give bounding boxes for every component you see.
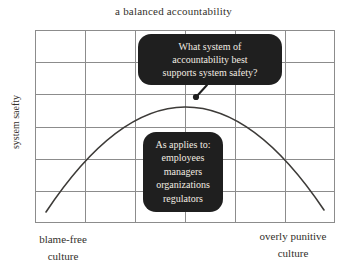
callout-question-line: accountability best	[138, 53, 282, 66]
callout-applies-line: organizations	[143, 178, 223, 191]
callout-question-line: What system of	[138, 40, 282, 53]
x-axis-label-left-line: blame-free	[17, 231, 109, 248]
callout-applies-line: managers	[143, 165, 223, 178]
callout-question-line: supports system safety?	[138, 66, 282, 79]
x-axis-label-right-line: culture	[243, 245, 343, 262]
callout-applies-line: regulators	[143, 192, 223, 205]
x-axis-label-right-line: overly punitive	[243, 228, 343, 245]
figure: a balanced accountability system saefty …	[0, 0, 347, 268]
figure-title: a balanced accountability	[0, 5, 347, 17]
x-axis-label-left: blame-free culture	[17, 231, 109, 265]
callout-applies-to: As applies to: employees managers organi…	[143, 132, 223, 212]
callout-question: What system of accountability best suppo…	[138, 34, 282, 85]
callout-applies-line: employees	[143, 151, 223, 164]
curve-marker-dot	[193, 94, 199, 100]
callout-applies-line: As applies to:	[143, 138, 223, 151]
y-axis-label: system saefty	[10, 72, 24, 172]
x-axis-label-right: overly punitive culture	[243, 228, 343, 262]
x-axis-label-left-line: culture	[17, 248, 109, 265]
